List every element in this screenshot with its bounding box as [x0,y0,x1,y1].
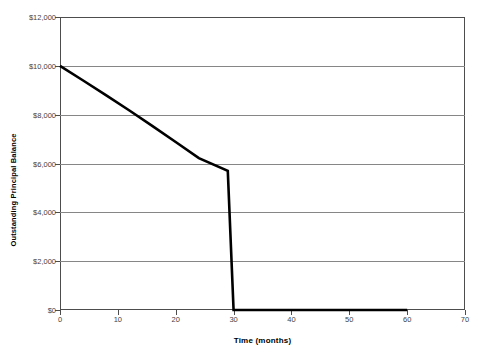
x-axis-tick-label: 10 [98,315,138,324]
gridline-horizontal [60,164,465,165]
y-axis-tick-mark [55,17,60,18]
x-axis-tick-mark [234,310,235,315]
x-axis-tick-label: 50 [329,315,369,324]
x-axis-tick-label: 60 [387,315,427,324]
y-axis-tick-mark [55,261,60,262]
x-axis-tick-label: 20 [156,315,196,324]
x-axis-tick-mark [465,310,466,315]
x-axis-tick-mark [118,310,119,315]
x-axis-tick-mark [60,310,61,315]
x-axis-tick-mark [176,310,177,315]
y-axis-title: Outstanding Principal Balance [9,90,18,290]
gridline-horizontal [60,261,465,262]
y-axis-tick-label: $10,000 [10,61,56,70]
x-axis-tick-mark [407,310,408,315]
y-axis-tick-mark [55,66,60,67]
gridline-horizontal [60,212,465,213]
y-axis-tick-mark [55,115,60,116]
x-axis-tick-label: 70 [445,315,485,324]
gridline-horizontal [60,115,465,116]
y-axis-tick-label: $12,000 [10,13,56,22]
y-axis-tick-mark [55,212,60,213]
x-axis-tick-label: 30 [214,315,254,324]
x-axis-tick-label: 0 [40,315,80,324]
gridline-horizontal [60,66,465,67]
x-axis-tick-label: 40 [271,315,311,324]
x-axis-tick-mark [291,310,292,315]
x-axis-title: Time (months) [60,336,465,345]
y-axis-tick-label: $0 [10,306,56,315]
x-axis-tick-mark [349,310,350,315]
y-axis-tick-mark [55,164,60,165]
chart-container: $0$2,000$4,000$6,000$8,000$10,000$12,000… [0,0,486,360]
